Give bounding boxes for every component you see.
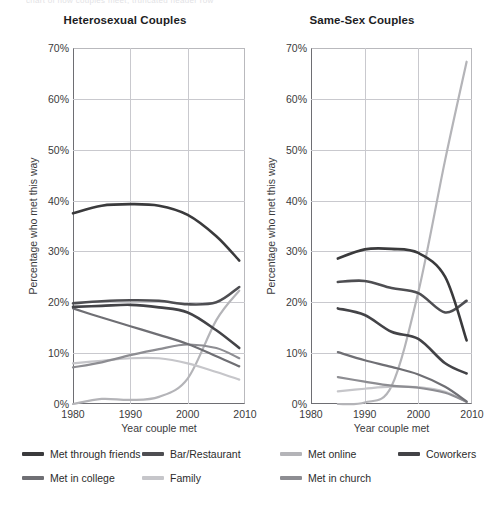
legend-swatch-icon — [22, 476, 44, 479]
legend-item-met-through-friends[interactable]: Met through friends — [22, 444, 140, 464]
legend-label: Met through friends — [50, 448, 140, 460]
series-line — [73, 287, 239, 305]
truncated-header-strip: chart of how couples meet, truncated hea… — [0, 0, 498, 9]
legend-row-1: Met through friendsBar/RestaurantMet onl… — [0, 444, 498, 464]
y-axis-tick: 40% — [286, 195, 307, 207]
y-axis-tick: 70% — [48, 42, 69, 54]
legend-swatch-icon — [280, 452, 302, 455]
chart-panel-heterosexual: Heterosexual Couples Percentage who met … — [0, 10, 256, 440]
series-line — [338, 281, 467, 313]
chart-title-same-sex: Same-Sex Couples — [242, 14, 482, 26]
chart-legend: Met through friendsBar/RestaurantMet onl… — [0, 442, 498, 506]
y-axis-tick: 30% — [286, 245, 307, 257]
x-axis-tick: 1990 — [119, 408, 142, 420]
legend-item-met-in-college[interactable]: Met in college — [22, 468, 115, 488]
y-axis-tick: 60% — [286, 93, 307, 105]
x-axis-label-left: Year couple met — [73, 422, 245, 434]
legend-row-2: Met in collegeFamilyMet in church — [0, 468, 498, 488]
legend-swatch-icon — [280, 476, 302, 479]
x-axis-tick: 1980 — [61, 408, 84, 420]
series-line — [73, 358, 239, 380]
chart-page: chart of how couples meet, truncated hea… — [0, 0, 498, 509]
legend-label: Coworkers — [426, 448, 476, 460]
legend-swatch-icon — [398, 452, 420, 455]
plot-area-right: 0%10%20%30%40%50%60%70%1980199020002010 — [311, 48, 472, 404]
x-axis-label-right: Year couple met — [311, 422, 472, 434]
y-axis-tick: 20% — [48, 296, 69, 308]
legend-item-family[interactable]: Family — [142, 468, 201, 488]
legend-label: Met in college — [50, 472, 115, 484]
legend-item-met-online[interactable]: Met online — [280, 444, 356, 464]
y-axis-tick: 30% — [48, 245, 69, 257]
series-line — [73, 305, 239, 348]
x-axis-tick: 2010 — [460, 408, 483, 420]
legend-label: Bar/Restaurant — [170, 448, 241, 460]
series-layer-left — [73, 48, 245, 404]
legend-item-met-in-church[interactable]: Met in church — [280, 468, 371, 488]
y-axis-tick: 70% — [286, 42, 307, 54]
y-axis-tick: 10% — [286, 347, 307, 359]
x-axis-tick: 2000 — [176, 408, 199, 420]
series-line — [73, 204, 239, 260]
y-axis-tick: 40% — [48, 195, 69, 207]
charts-container: Heterosexual Couples Percentage who met … — [0, 10, 498, 440]
legend-label: Family — [170, 472, 201, 484]
x-axis-tick: 1990 — [353, 408, 376, 420]
y-axis-tick: 10% — [48, 347, 69, 359]
series-line — [338, 308, 467, 373]
legend-item-bar-restaurant[interactable]: Bar/Restaurant — [142, 444, 241, 464]
y-axis-tick: 50% — [48, 144, 69, 156]
legend-label: Met in church — [308, 472, 371, 484]
chart-title-heterosexual: Heterosexual Couples — [6, 14, 244, 26]
series-layer-right — [311, 48, 472, 404]
y-axis-label-left: Percentage who met this way — [27, 131, 39, 321]
y-axis-tick: 20% — [286, 296, 307, 308]
y-axis-tick: 50% — [286, 144, 307, 156]
chart-panel-same-sex: Same-Sex Couples Percentage who met this… — [238, 10, 498, 440]
series-line — [338, 62, 467, 405]
legend-swatch-icon — [22, 452, 44, 455]
series-line — [338, 248, 467, 340]
x-axis-tick: 2000 — [407, 408, 430, 420]
truncated-header-text: chart of how couples meet, truncated hea… — [26, 0, 214, 5]
legend-label: Met online — [308, 448, 356, 460]
legend-swatch-icon — [142, 476, 164, 479]
y-axis-label-right: Percentage who met this way — [265, 131, 277, 321]
legend-item-coworkers[interactable]: Coworkers — [398, 444, 476, 464]
y-axis-tick: 60% — [48, 93, 69, 105]
legend-swatch-icon — [142, 452, 164, 455]
plot-area-left: 0%10%20%30%40%50%60%70%1980199020002010 — [73, 48, 245, 404]
x-axis-tick: 1980 — [299, 408, 322, 420]
